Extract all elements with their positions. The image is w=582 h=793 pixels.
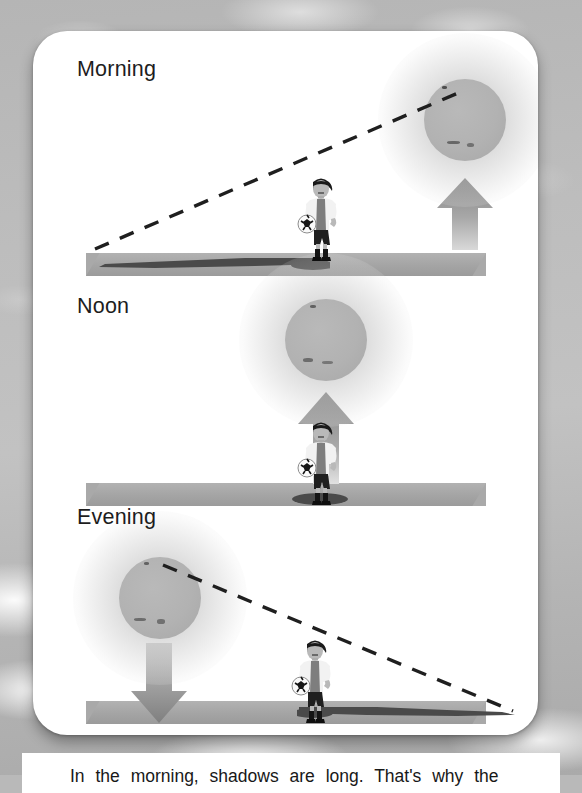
caption-strip: In the morning, shadows are long. That's… [22,753,560,793]
sun-disc [285,299,367,381]
caption-text: In the morning, shadows are long. That's… [22,753,560,791]
scene-label-evening: Evening [77,505,156,530]
scene-label-noon: Noon [77,294,129,319]
scene-label-morning: Morning [77,57,156,82]
sun-noon [285,299,367,381]
boy-figure-noon [294,418,348,506]
light-ray-morning [73,51,493,261]
scene-morning: Morning [33,31,538,272]
diagram-card: Morning [33,31,538,735]
light-ray-evening [153,549,523,724]
ground-noon [86,483,486,506]
scene-noon: Noon [33,246,538,487]
